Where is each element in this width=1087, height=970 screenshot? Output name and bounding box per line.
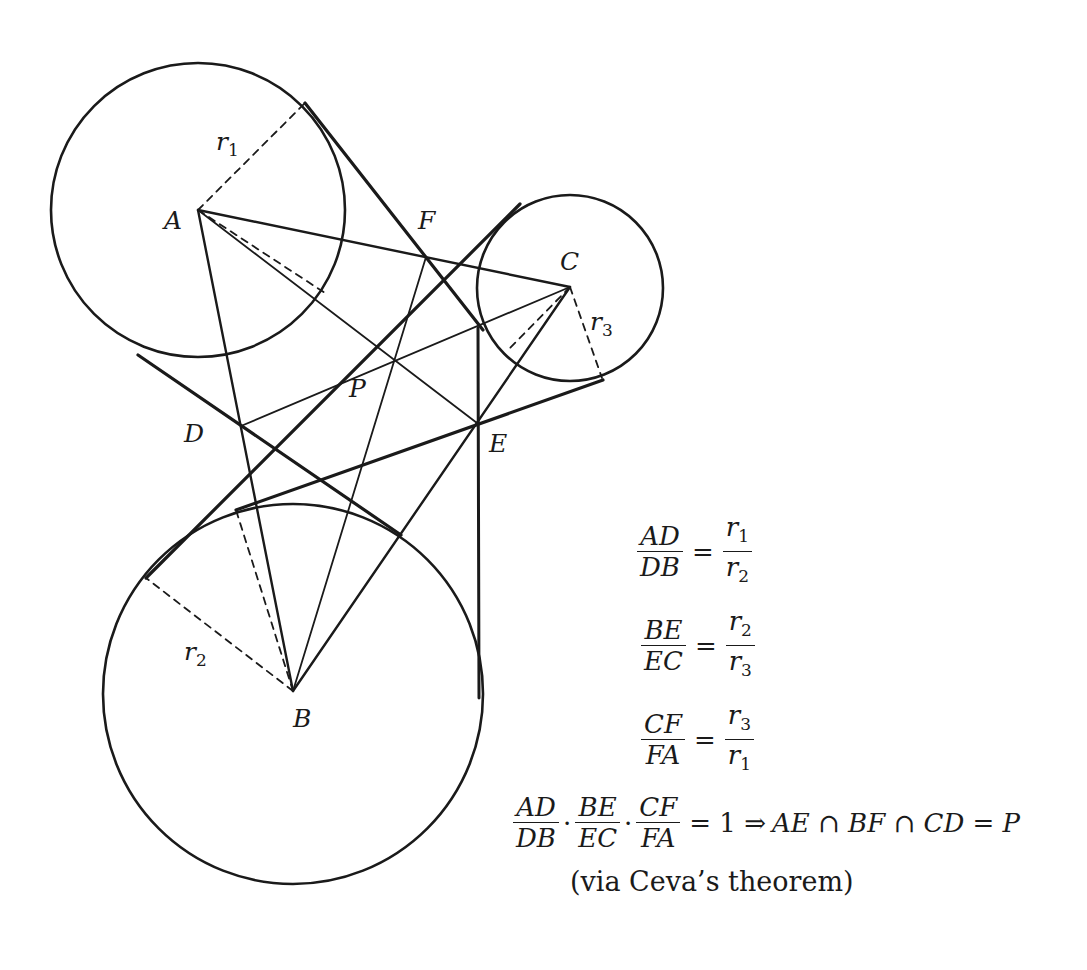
denominator: r2	[723, 552, 752, 591]
concurrency-conclusion: AE ∩ BF ∩ CD = P	[772, 808, 1020, 838]
label-e: E	[488, 429, 507, 458]
label-c: C	[560, 247, 579, 276]
radius-b-dashed	[236, 510, 293, 691]
denominator: DB	[637, 552, 683, 582]
label-f: F	[417, 206, 437, 235]
denominator: r1	[725, 740, 754, 779]
tangent-c-b-through-f-d	[146, 204, 520, 578]
fraction-ad-db: AD DB	[513, 792, 559, 853]
radius-r1	[198, 103, 305, 210]
denominator: EC	[641, 646, 686, 676]
equation-cf-fa: CF FA = r3 r1	[638, 700, 757, 779]
fraction-cf-fa: CF FA	[641, 709, 685, 770]
label-b: B	[292, 704, 311, 733]
label-a: A	[162, 206, 182, 235]
dot-operator: ·	[624, 808, 632, 838]
numerator: r2	[726, 606, 755, 645]
fraction-be-ec: BE EC	[641, 615, 686, 676]
cevian-ae	[198, 210, 477, 423]
equation-ad-db: AD DB = r1 r2	[634, 512, 755, 591]
equation-be-ec: BE EC = r2 r3	[638, 606, 758, 685]
numerator: CF	[641, 709, 685, 739]
tangent-a-c-through-f	[305, 103, 483, 330]
label-d: D	[183, 419, 204, 448]
tangent-c-b-through-e	[236, 380, 603, 510]
radius-r2	[146, 578, 293, 691]
denominator: EC	[575, 823, 620, 853]
numerator: AD	[637, 521, 683, 551]
label-r2: r2	[184, 637, 207, 670]
equation-ceva-product: AD DB · BE EC · CF FA = 1 ⇒ AE ∩ BF ∩ CD…	[510, 792, 1020, 853]
equals-sign: =	[695, 631, 717, 661]
label-r1: r1	[216, 127, 239, 160]
equals-sign: =	[694, 725, 716, 755]
fraction-ad-db: AD DB	[637, 521, 683, 582]
numerator: r3	[725, 700, 754, 739]
numerator: BE	[576, 792, 620, 822]
numerator: BE	[641, 615, 685, 645]
numerator: r1	[723, 512, 752, 551]
label-p: P	[348, 374, 367, 403]
fraction-cf-fa: CF FA	[636, 792, 680, 853]
equals-one-implies: = 1 ⇒	[689, 808, 766, 838]
denominator: FA	[638, 823, 679, 853]
side-ac	[198, 210, 570, 287]
denominator: DB	[513, 823, 559, 853]
numerator: CF	[636, 792, 680, 822]
fraction-r3-r1: r3 r1	[725, 700, 754, 779]
fraction-be-ec: BE EC	[575, 792, 620, 853]
denominator: FA	[643, 740, 684, 770]
label-r3: r3	[590, 307, 613, 340]
circle-b	[103, 504, 483, 884]
ceva-caption: (via Ceva’s theorem)	[570, 866, 854, 897]
denominator: r3	[726, 646, 755, 685]
equals-sign: =	[692, 537, 714, 567]
numerator: AD	[513, 792, 559, 822]
fraction-r1-r2: r1 r2	[723, 512, 752, 591]
dot-operator: ·	[563, 808, 571, 838]
radius-c-dashed	[508, 287, 570, 350]
tangent-vertical-through-e	[478, 328, 479, 698]
fraction-r2-r3: r2 r3	[726, 606, 755, 685]
cevian-cd	[241, 287, 570, 426]
